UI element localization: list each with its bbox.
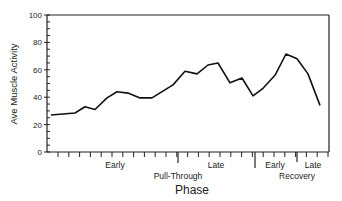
x-axis-title: Phase — [175, 183, 209, 197]
line-chart: 0 20 40 60 80 100 Ave Muscle Activity Ea… — [0, 0, 342, 201]
y-ticks — [44, 15, 50, 152]
y-axis-title: Ave Muscle Activity — [8, 43, 19, 124]
y-tick-40: 40 — [33, 93, 42, 102]
group-recovery: Recovery — [279, 171, 316, 181]
y-tick-60: 60 — [33, 66, 42, 75]
group-pull-through: Pull-Through — [154, 171, 203, 181]
y-tick-0: 0 — [38, 148, 43, 157]
series-line — [51, 54, 320, 115]
x-ticks — [58, 152, 328, 168]
y-tick-80: 80 — [33, 38, 42, 47]
phase-late-pull: Late — [208, 160, 225, 170]
phase-early-pull: Early — [105, 160, 125, 170]
phase-late-recovery: Late — [305, 160, 322, 170]
phase-early-recovery: Early — [265, 160, 285, 170]
y-tick-100: 100 — [29, 11, 43, 20]
y-tick-20: 20 — [33, 121, 42, 130]
